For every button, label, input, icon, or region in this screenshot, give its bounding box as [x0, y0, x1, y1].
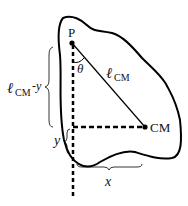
brace-x — [77, 164, 142, 170]
pivot-label: P — [68, 25, 75, 40]
length-label: ℓ — [106, 65, 112, 81]
pivot-point — [69, 40, 74, 45]
vertical-diff-subscript: CM — [15, 87, 31, 98]
vertical-diff-suffix: -y — [32, 79, 42, 93]
cm-label: CM — [150, 120, 171, 135]
brace-lcm-minus-y — [45, 47, 53, 127]
length-subscript: CM — [114, 72, 130, 83]
x-label: x — [104, 174, 112, 189]
pendulum-diagram: P θ ℓ CM CM ℓ CM -y y x — [0, 0, 188, 206]
vertical-diff-label: ℓ — [7, 80, 13, 96]
y-label: y — [52, 133, 61, 148]
rigid-body-outline — [59, 17, 181, 167]
brace-y — [64, 129, 70, 154]
cm-point — [142, 124, 147, 129]
angle-label: θ — [77, 61, 84, 76]
pivot-to-cm-line — [72, 43, 145, 127]
